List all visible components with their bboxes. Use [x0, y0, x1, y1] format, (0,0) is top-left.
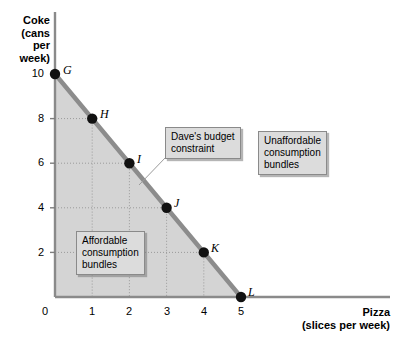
x-tick-label-3: 3: [157, 305, 177, 317]
x-tick-label-2: 2: [119, 305, 139, 317]
point-label-L: L: [248, 285, 255, 300]
x-tick-label-0: 0: [35, 305, 55, 317]
x-tick-label-4: 4: [194, 305, 214, 317]
callout-affordable-consumption-bundles: Affordable consumption bundles: [76, 231, 145, 275]
data-point-I: [124, 158, 134, 168]
budget-constraint-chart: Coke (cans per week) Pizza (slices per w…: [0, 0, 400, 346]
point-label-G: G: [63, 63, 72, 78]
callout-unaffordable-consumption-bundles: Unaffordable consumption bundles: [258, 131, 327, 175]
x-axis-title: Pizza (slices per week): [240, 306, 390, 331]
chart-canvas: [0, 0, 400, 346]
y-axis-title: Coke (cans per week): [0, 14, 50, 64]
x-tick-label-5: 5: [231, 305, 251, 317]
y-tick-label-10: 10: [20, 67, 44, 79]
y-tick-label-2: 2: [20, 246, 44, 258]
y-tick-label-6: 6: [20, 156, 44, 168]
x-tick-label-1: 1: [82, 305, 102, 317]
callout-daves-budget-constraint: Dave's budget constraint: [165, 127, 241, 159]
point-label-J: J: [174, 196, 179, 211]
y-tick-label-8: 8: [20, 112, 44, 124]
data-point-J: [161, 203, 171, 213]
data-point-H: [87, 113, 97, 123]
data-point-K: [199, 247, 209, 257]
point-label-H: H: [100, 107, 109, 122]
data-point-G: [50, 69, 60, 79]
data-point-L: [236, 292, 246, 302]
y-tick-label-4: 4: [20, 201, 44, 213]
point-label-I: I: [137, 152, 141, 167]
budget-constraint-leader-line: [139, 157, 166, 185]
point-label-K: K: [211, 241, 219, 256]
